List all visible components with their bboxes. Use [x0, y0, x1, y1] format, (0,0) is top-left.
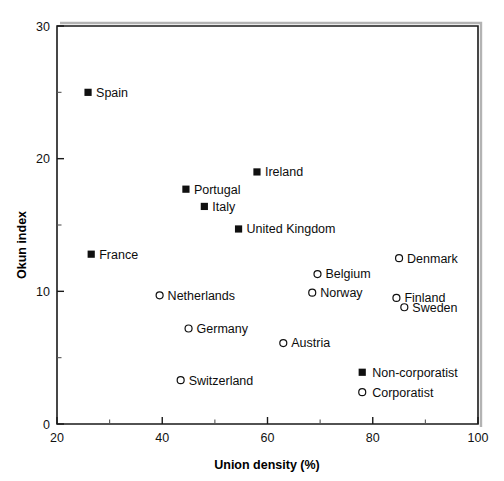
data-point-label: Austria: [291, 336, 330, 350]
x-tick-label: 100: [468, 431, 489, 445]
data-point: Netherlands: [156, 289, 235, 303]
x-tick-label: 20: [50, 431, 64, 445]
data-point-filled-square-marker: [201, 203, 208, 210]
data-point-label: Norway: [320, 286, 363, 300]
data-point-label: Switzerland: [189, 374, 254, 388]
data-point-label: Sweden: [412, 301, 457, 315]
figure-background: [0, 0, 504, 481]
data-point-filled-square-marker: [84, 89, 91, 96]
y-axis-title: Okun index: [15, 211, 29, 279]
x-tick-label: 60: [261, 431, 275, 445]
legend-item-label: Corporatist: [372, 386, 434, 400]
scatter-plot-figure: 20406080100 0102030 SpainIrelandPortugal…: [0, 0, 504, 481]
legend-item: Non-corporatist: [359, 366, 459, 380]
data-point-open-circle-marker: [156, 292, 163, 299]
data-point-filled-square-marker: [88, 251, 95, 258]
data-point: United Kingdom: [235, 222, 336, 236]
data-point-label: Belgium: [325, 267, 370, 281]
data-point-open-circle-marker: [309, 289, 316, 296]
data-point-label: France: [99, 248, 138, 262]
data-point-label: Ireland: [265, 165, 303, 179]
data-point-label: United Kingdom: [247, 222, 336, 236]
data-point-filled-square-marker: [253, 168, 260, 175]
y-tick-label: 10: [36, 285, 50, 299]
y-tick-label: 30: [36, 20, 50, 34]
data-point-label: Denmark: [407, 252, 458, 266]
data-point-open-circle-marker: [393, 294, 400, 301]
y-tick-label: 0: [43, 418, 50, 432]
legend-open-circle-marker: [359, 389, 366, 396]
data-point: Switzerland: [177, 374, 253, 388]
data-point-filled-square-marker: [235, 225, 242, 232]
data-point-open-circle-marker: [177, 377, 184, 384]
data-point-open-circle-marker: [396, 255, 403, 262]
legend-item-label: Non-corporatist: [372, 366, 458, 380]
data-point-label: Portugal: [194, 183, 241, 197]
legend-filled-square-marker: [359, 369, 366, 376]
y-tick-label: 20: [36, 152, 50, 166]
data-point-filled-square-marker: [182, 186, 189, 193]
data-point-label: Spain: [96, 86, 128, 100]
data-point-open-circle-marker: [314, 271, 321, 278]
data-point-label: Italy: [212, 200, 236, 214]
x-tick-label: 40: [155, 431, 169, 445]
data-point-open-circle-marker: [280, 340, 287, 347]
x-tick-label: 80: [366, 431, 380, 445]
data-point-open-circle-marker: [185, 325, 192, 332]
x-axis-title: Union density (%): [214, 458, 320, 472]
data-point-label: Netherlands: [168, 289, 235, 303]
data-point-open-circle-marker: [401, 304, 408, 311]
data-point-label: Germany: [197, 322, 249, 336]
